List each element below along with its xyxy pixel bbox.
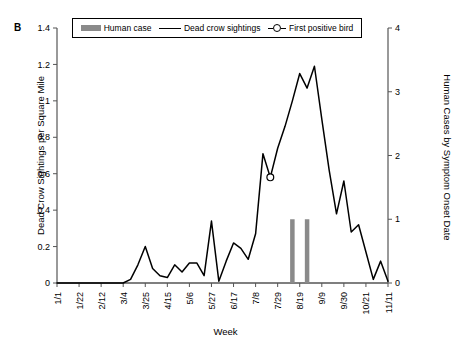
first-positive-bird-marker	[267, 174, 274, 181]
x-axis-ticks: 1/11/222/123/43/254/155/65/276/177/87/29…	[53, 283, 394, 315]
y-right-tick-label: 4	[395, 23, 400, 33]
y-axis-left-ticks: 00.20.40.60.811.21.4	[37, 23, 57, 288]
x-tick-label: 4/15	[163, 292, 173, 310]
y-right-tick-label: 3	[395, 87, 400, 97]
human-case-bar	[290, 219, 295, 283]
first-positive-bird-circle-icon	[267, 174, 274, 181]
x-tick-label: 7/29	[273, 292, 283, 310]
x-tick-label: 5/6	[185, 292, 195, 305]
x-tick-label: 6/17	[229, 292, 239, 310]
axis-lines	[57, 28, 388, 283]
x-tick-label: 2/12	[97, 292, 107, 310]
y-left-tick-label: 0.8	[37, 132, 50, 142]
x-tick-label: 9/30	[339, 292, 349, 310]
y-left-tick-label: 0.2	[37, 242, 50, 252]
y-axis-right-ticks: 01234	[388, 23, 400, 288]
dead-crow-sightings-line	[57, 66, 388, 283]
x-tick-label: 3/25	[141, 292, 151, 310]
y-right-tick-label: 2	[395, 151, 400, 161]
x-tick-label: 10/21	[361, 292, 371, 315]
x-tick-label: 3/4	[119, 292, 129, 305]
x-tick-label: 7/8	[251, 292, 261, 305]
x-tick-label: 11/11	[384, 292, 394, 313]
x-tick-label: 5/27	[207, 292, 217, 310]
y-right-tick-label: 0	[395, 278, 400, 288]
x-tick-label: 1/22	[75, 292, 85, 310]
y-left-tick-label: 1.2	[37, 60, 50, 70]
y-left-tick-label: 0	[45, 278, 50, 288]
x-tick-label: 8/19	[295, 292, 305, 310]
human-case-bars	[290, 219, 309, 283]
x-tick-label: 1/1	[53, 292, 63, 305]
x-tick-label: 9/9	[317, 292, 327, 305]
y-left-tick-label: 0.4	[37, 205, 50, 215]
y-left-tick-label: 1	[45, 96, 50, 106]
human-case-bar	[305, 219, 310, 283]
y-left-tick-label: 0.6	[37, 169, 50, 179]
y-left-tick-label: 1.4	[37, 23, 50, 33]
y-right-tick-label: 1	[395, 214, 400, 224]
